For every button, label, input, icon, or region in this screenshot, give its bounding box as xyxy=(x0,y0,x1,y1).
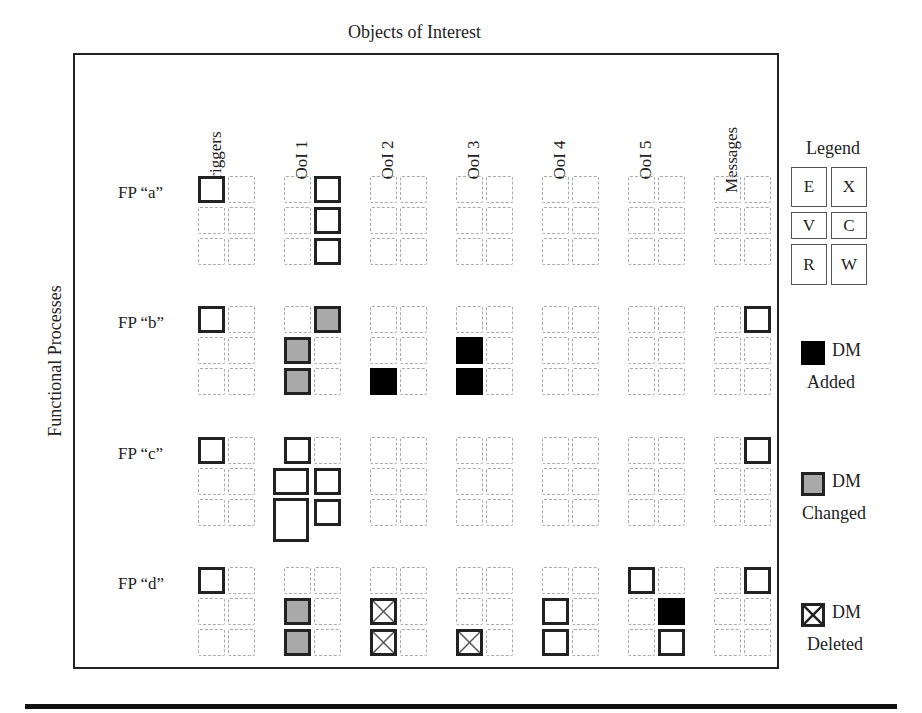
cell-fp-b-ooi1-w-empty xyxy=(314,368,341,395)
cell-fp-a-ooi3-x-empty xyxy=(486,176,513,203)
cell-fp-c-ooi1-r-solid-large xyxy=(273,498,309,542)
cell-fp-a-ooi3-c-empty xyxy=(486,207,513,234)
cell-fp-c-messages-c-empty xyxy=(744,468,771,495)
cell-fp-b-ooi4-x-empty xyxy=(572,306,599,333)
dm-deleted-icon xyxy=(801,603,825,627)
cell-fp-d-messages-v-empty xyxy=(714,598,741,625)
cell-fp-b-messages-r-empty xyxy=(714,368,741,395)
cell-fp-d-messages-x-solid xyxy=(744,567,771,594)
cell-fp-a-ooi1-v-empty xyxy=(284,207,311,234)
cell-fp-c-ooi4-e-empty xyxy=(542,437,569,464)
dm-added-icon xyxy=(801,341,825,365)
row-header-fp-a: FP “a” xyxy=(118,183,163,203)
row-header-fp-b: FP “b” xyxy=(118,313,164,333)
cell-fp-b-ooi3-v-added xyxy=(456,337,483,364)
cell-fp-c-ooi5-r-empty xyxy=(628,499,655,526)
cell-fp-b-ooi2-e-empty xyxy=(370,306,397,333)
cell-fp-a-messages-v-empty xyxy=(714,207,741,234)
cell-fp-d-ooi5-v-empty xyxy=(628,598,655,625)
cell-fp-a-ooi2-x-empty xyxy=(400,176,427,203)
cell-fp-a-ooi4-c-empty xyxy=(572,207,599,234)
cell-fp-b-ooi2-c-empty xyxy=(400,337,427,364)
legend-changed-line2: Changed xyxy=(802,503,866,524)
cell-fp-b-ooi5-w-empty xyxy=(658,368,685,395)
cell-fp-c-ooi2-x-empty xyxy=(400,437,427,464)
cell-fp-d-triggers-w-empty xyxy=(228,629,255,656)
cell-fp-d-ooi3-c-empty xyxy=(486,598,513,625)
cell-fp-d-triggers-r-empty xyxy=(198,629,225,656)
cell-fp-d-ooi1-w-empty xyxy=(314,629,341,656)
cell-fp-d-messages-e-empty xyxy=(714,567,741,594)
row-header-fp-d: FP “d” xyxy=(118,574,164,594)
cell-fp-c-ooi4-c-empty xyxy=(572,468,599,495)
cell-fp-a-triggers-w-empty xyxy=(228,238,255,265)
cell-fp-d-ooi2-x-empty xyxy=(400,567,427,594)
cell-fp-d-messages-r-empty xyxy=(714,629,741,656)
dm-changed-icon xyxy=(801,472,825,496)
cell-fp-d-ooi3-e-empty xyxy=(456,567,483,594)
cell-fp-c-triggers-c-empty xyxy=(228,468,255,495)
cell-fp-c-ooi5-x-empty xyxy=(658,437,685,464)
cell-fp-a-ooi2-r-empty xyxy=(370,238,397,265)
cell-fp-d-ooi3-r-deleted xyxy=(456,629,483,656)
cell-fp-b-messages-x-solid xyxy=(744,306,771,333)
cell-fp-a-ooi1-x-solid xyxy=(314,176,341,203)
cell-fp-b-triggers-e-solid xyxy=(198,306,225,333)
cell-fp-c-ooi4-r-empty xyxy=(542,499,569,526)
cell-fp-c-ooi3-v-empty xyxy=(456,468,483,495)
cell-fp-a-triggers-r-empty xyxy=(198,238,225,265)
cell-fp-b-ooi3-r-added xyxy=(456,368,483,395)
cell-fp-d-ooi5-r-empty xyxy=(628,629,655,656)
cell-fp-c-messages-r-empty xyxy=(714,499,741,526)
cell-fp-b-ooi2-x-empty xyxy=(400,306,427,333)
legend-key-validate: V xyxy=(791,212,827,239)
cell-fp-a-ooi1-c-solid xyxy=(314,207,341,234)
legend-key-exit: X xyxy=(831,167,867,207)
cell-fp-b-ooi2-w-empty xyxy=(400,368,427,395)
cell-fp-b-ooi5-v-empty xyxy=(628,337,655,364)
cell-fp-d-ooi2-c-empty xyxy=(400,598,427,625)
cell-fp-b-ooi4-e-empty xyxy=(542,306,569,333)
cell-fp-a-ooi5-x-empty xyxy=(658,176,685,203)
legend-added-line1: DM xyxy=(832,340,861,361)
cell-fp-a-ooi5-c-empty xyxy=(658,207,685,234)
cell-fp-a-ooi1-w-solid xyxy=(314,238,341,265)
cell-fp-c-ooi2-w-empty xyxy=(400,499,427,526)
cell-fp-a-ooi3-e-empty xyxy=(456,176,483,203)
cell-fp-d-ooi3-w-empty xyxy=(486,629,513,656)
cell-fp-b-triggers-v-empty xyxy=(198,337,225,364)
cell-fp-d-ooi4-c-empty xyxy=(572,598,599,625)
cell-fp-d-ooi5-c-added xyxy=(658,598,685,625)
cell-fp-d-ooi1-x-empty xyxy=(314,567,341,594)
cell-fp-c-ooi1-e-solid xyxy=(284,437,311,464)
cell-fp-b-ooi1-x-changed xyxy=(314,306,341,333)
cell-fp-b-ooi2-r-added xyxy=(370,368,397,395)
cell-fp-a-ooi4-r-empty xyxy=(542,238,569,265)
cell-fp-c-ooi1-x-empty xyxy=(314,437,341,464)
cell-fp-a-messages-e-empty xyxy=(714,176,741,203)
cell-fp-c-ooi2-v-empty xyxy=(370,468,397,495)
cell-fp-a-messages-r-empty xyxy=(714,238,741,265)
cell-fp-b-ooi4-w-empty xyxy=(572,368,599,395)
cell-fp-c-ooi5-v-empty xyxy=(628,468,655,495)
cell-fp-c-ooi3-r-empty xyxy=(456,499,483,526)
cell-fp-d-ooi2-v-deleted xyxy=(370,598,397,625)
row-header-fp-c: FP “c” xyxy=(118,444,163,464)
cell-fp-a-ooi3-w-empty xyxy=(486,238,513,265)
cell-fp-a-triggers-c-empty xyxy=(228,207,255,234)
cell-fp-b-ooi4-r-empty xyxy=(542,368,569,395)
cell-fp-c-ooi4-v-empty xyxy=(542,468,569,495)
cell-fp-c-ooi3-c-empty xyxy=(486,468,513,495)
cell-fp-b-ooi4-v-empty xyxy=(542,337,569,364)
cell-fp-d-triggers-c-empty xyxy=(228,598,255,625)
cell-fp-d-ooi2-w-empty xyxy=(400,629,427,656)
cell-fp-d-ooi4-v-solid xyxy=(542,598,569,625)
cell-fp-a-ooi5-w-empty xyxy=(658,238,685,265)
cell-fp-a-triggers-v-empty xyxy=(198,207,225,234)
cell-fp-c-ooi2-r-empty xyxy=(370,499,397,526)
cell-fp-b-ooi1-e-empty xyxy=(284,306,311,333)
cell-fp-a-ooi5-v-empty xyxy=(628,207,655,234)
cell-fp-c-ooi4-x-empty xyxy=(572,437,599,464)
cell-fp-a-ooi2-e-empty xyxy=(370,176,397,203)
cell-fp-d-ooi3-x-empty xyxy=(486,567,513,594)
